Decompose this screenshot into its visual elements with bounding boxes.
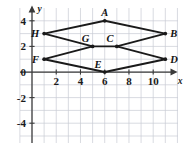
segment-A-B — [105, 21, 166, 34]
y-tick-label: 2 — [21, 40, 27, 52]
coordinate-plane-figure: 246810420-2-4 xy ABCDEFGH — [0, 0, 189, 150]
vertex-label-C: C — [107, 33, 115, 44]
vertex-point-G — [91, 45, 95, 49]
vertex-point-F — [42, 57, 46, 61]
y-tick-label: -2 — [17, 92, 27, 104]
y-tick-label: 4 — [21, 15, 27, 27]
vertex-label-H: H — [30, 28, 40, 39]
vertex-point-D — [163, 57, 167, 61]
segment-H-A — [44, 21, 105, 34]
vertex-label-A: A — [100, 7, 108, 18]
x-axis-arrowhead — [171, 69, 178, 76]
vertex-label-G: G — [82, 33, 90, 44]
vertex-label-E: E — [94, 59, 102, 70]
vertex-label-B: B — [169, 28, 177, 39]
segment-D-E — [105, 59, 166, 72]
vertex-label-D: D — [169, 54, 178, 65]
vertex-point-C — [115, 45, 119, 49]
y-tick-label: 0 — [21, 66, 27, 78]
vertex-point-A — [103, 19, 107, 23]
vertex-point-B — [163, 32, 167, 36]
y-axis-label: y — [37, 4, 43, 14]
axis-name-layer: xy — [37, 4, 183, 86]
x-tick-label: 2 — [53, 75, 59, 87]
y-axis-arrowhead — [29, 6, 36, 13]
x-axis-label: x — [177, 76, 183, 86]
vertex-label-F: F — [31, 54, 39, 65]
plot-svg: 246810420-2-4 xy ABCDEFGH — [0, 0, 189, 150]
y-tick-label: -4 — [17, 117, 27, 129]
x-tick-label: 4 — [78, 75, 84, 87]
x-tick-label: 10 — [148, 75, 160, 87]
x-tick-label: 8 — [126, 75, 132, 87]
x-tick-label: 6 — [102, 75, 108, 87]
vertex-point-H — [42, 32, 46, 36]
vertex-point-E — [103, 70, 107, 74]
